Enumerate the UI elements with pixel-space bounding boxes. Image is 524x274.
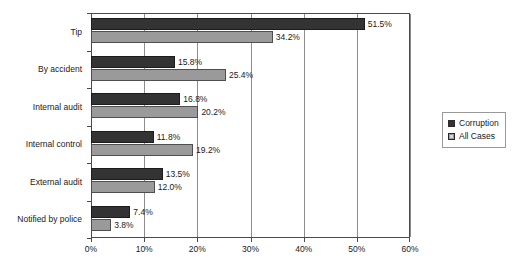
bar-group: 7.4%3.8%: [91, 201, 410, 239]
bar-value-label: 3.8%: [114, 219, 133, 231]
category-axis: TipBy accidentInternal auditInternal con…: [0, 13, 87, 238]
legend-swatch-icon: [448, 120, 455, 127]
bar-item: 15.8%: [91, 56, 202, 68]
x-axis-tick: [197, 238, 198, 242]
bar-allcases: [91, 181, 155, 193]
gridline-60%: [410, 14, 411, 237]
bar-corruption: [91, 18, 365, 30]
bar-item: 34.2%: [91, 31, 300, 43]
bar-item: 51.5%: [91, 18, 392, 30]
bar-value-label: 19.2%: [196, 144, 220, 156]
bar-item: 7.4%: [91, 206, 153, 218]
bar-item: 12.0%: [91, 181, 182, 193]
category-label: By accident: [0, 51, 87, 89]
bar-value-label: 25.4%: [229, 69, 253, 81]
bar-group: 51.5%34.2%: [91, 13, 410, 51]
bar-corruption: [91, 131, 154, 143]
bar-item: 19.2%: [91, 144, 220, 156]
bar-allcases: [91, 31, 273, 43]
bar-corruption: [91, 56, 175, 68]
bar-value-label: 16.8%: [183, 93, 207, 105]
bar-item: 13.5%: [91, 168, 190, 180]
x-axis-tick-label: 20%: [189, 244, 206, 254]
bar-groups: 51.5%34.2%15.8%25.4%16.8%20.2%11.8%19.2%…: [91, 13, 410, 238]
bar-group: 16.8%20.2%: [91, 88, 410, 126]
category-label: Notified by police: [0, 201, 87, 239]
bar-allcases: [91, 106, 198, 118]
bar-item: 16.8%: [91, 93, 207, 105]
x-axis-tick-label: 60%: [401, 244, 418, 254]
x-axis-labels: 0%10%20%30%40%50%60%: [91, 244, 410, 258]
category-label: Internal audit: [0, 88, 87, 126]
legend-swatch-icon: [448, 133, 455, 140]
bar-value-label: 11.8%: [157, 131, 180, 143]
bar-value-label: 12.0%: [158, 181, 182, 193]
x-axis-tick: [251, 238, 252, 242]
chart-legend: CorruptionAll Cases: [442, 112, 506, 148]
bar-group: 11.8%19.2%: [91, 126, 410, 164]
x-axis-tick-label: 0%: [85, 244, 97, 254]
bar-value-label: 34.2%: [276, 31, 300, 43]
x-axis-tick-label: 10%: [136, 244, 153, 254]
bar-value-label: 20.2%: [201, 106, 225, 118]
bar-chart: TipBy accidentInternal auditInternal con…: [0, 0, 524, 274]
x-axis-tick: [144, 238, 145, 242]
bar-value-label: 15.8%: [178, 56, 202, 68]
bar-group: 13.5%12.0%: [91, 163, 410, 201]
bar-value-label: 13.5%: [166, 168, 190, 180]
bar-corruption: [91, 206, 130, 218]
bar-allcases: [91, 69, 226, 81]
legend-item[interactable]: Corruption: [448, 117, 499, 130]
bar-item: 25.4%: [91, 69, 253, 81]
bar-value-label: 7.4%: [133, 206, 152, 218]
category-label: Internal control: [0, 126, 87, 164]
bar-item: 11.8%: [91, 131, 180, 143]
bar-value-label: 51.5%: [368, 18, 392, 30]
x-axis-tick: [409, 238, 410, 242]
x-axis-tick: [304, 238, 305, 242]
x-axis-tick-label: 50%: [348, 244, 365, 254]
bar-group: 15.8%25.4%: [91, 51, 410, 89]
bar-item: 3.8%: [91, 219, 134, 231]
bar-item: 20.2%: [91, 106, 226, 118]
legend-label: All Cases: [459, 130, 495, 143]
x-axis-ticks: [91, 238, 410, 243]
bar-allcases: [91, 144, 193, 156]
x-axis-tick: [357, 238, 358, 242]
legend-item[interactable]: All Cases: [448, 130, 499, 143]
category-label: External audit: [0, 163, 87, 201]
x-axis-tick-label: 30%: [242, 244, 259, 254]
bar-corruption: [91, 93, 180, 105]
x-axis-tick-label: 40%: [295, 244, 312, 254]
x-axis-tick: [91, 238, 92, 242]
bar-corruption: [91, 168, 163, 180]
category-label: Tip: [0, 13, 87, 51]
bar-allcases: [91, 219, 111, 231]
legend-label: Corruption: [459, 117, 499, 130]
